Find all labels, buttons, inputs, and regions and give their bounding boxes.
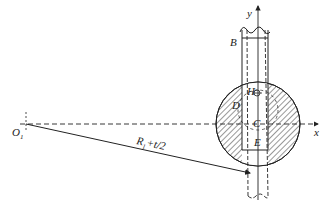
- label-x-axis: x: [314, 127, 319, 138]
- label-point-d: D: [232, 100, 240, 111]
- label-point-e: E: [254, 137, 261, 148]
- label-origin: O1: [12, 127, 23, 141]
- label-point-c: C: [253, 118, 260, 129]
- label-y-axis: y: [247, 8, 252, 19]
- label-point-b: B: [230, 37, 237, 48]
- label-point-h: H: [247, 86, 255, 97]
- diagram-canvas: O1 R1+t/2 x y B C D E H: [0, 0, 326, 209]
- diagram-drawing: [0, 0, 326, 209]
